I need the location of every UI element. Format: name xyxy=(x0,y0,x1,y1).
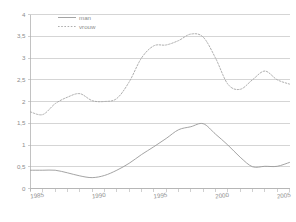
data-series-group xyxy=(31,34,290,178)
gridlines-group xyxy=(31,15,290,189)
legend: man vrouw xyxy=(58,14,96,30)
y-axis-tick-label: 0,5 xyxy=(17,163,26,170)
y-axis-tick-label: 2 xyxy=(22,98,26,105)
line-chart: 00,511,522,533,54 19851990199520002005 m… xyxy=(0,0,296,222)
x-axis-tick-label: 2000 xyxy=(215,191,230,200)
x-axis-tick-label: 1990 xyxy=(91,191,106,200)
y-axis-tick-label: 1 xyxy=(22,141,26,148)
y-axis-tick-label: 3 xyxy=(22,54,26,61)
legend-label-vrouw: vrouw xyxy=(79,23,96,30)
y-axis-tick-label: 4 xyxy=(22,11,26,18)
y-axis-tick-label: 3,5 xyxy=(17,32,26,39)
y-axis-tick-labels: 00,511,522,533,54 xyxy=(17,11,31,192)
y-axis-tick-label: 2,5 xyxy=(17,76,26,83)
series-line-vrouw xyxy=(31,34,290,115)
x-axis-tick-label: 1995 xyxy=(153,191,168,200)
x-axis-tick-label: 1985 xyxy=(30,191,45,200)
x-axis-tick-label: 2005 xyxy=(276,191,291,200)
chart-container: 00,511,522,533,54 19851990199520002005 m… xyxy=(0,0,296,222)
x-axis-tick-labels: 19851990199520002005 xyxy=(30,191,292,200)
y-axis-tick-label: 0 xyxy=(22,185,26,192)
y-axis-tick-label: 1,5 xyxy=(17,119,26,126)
series-line-man xyxy=(31,123,290,177)
legend-label-man: man xyxy=(79,14,92,21)
